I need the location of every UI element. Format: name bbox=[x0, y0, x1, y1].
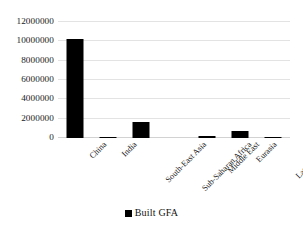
chart-legend: Built GFA bbox=[0, 208, 303, 218]
bar-slot bbox=[224, 22, 257, 138]
y-axis: 0200000040000006000000800000010000000120… bbox=[0, 22, 54, 138]
bar[interactable] bbox=[132, 122, 149, 138]
y-axis-tick-label: 0 bbox=[0, 133, 54, 142]
x-axis: ChinaIndiaSouth-East AsiaSub-Saharan Afr… bbox=[58, 140, 290, 202]
bar-slot bbox=[257, 22, 290, 138]
bar[interactable] bbox=[232, 131, 249, 138]
bar-chart: 0200000040000006000000800000010000000120… bbox=[0, 0, 303, 241]
bar[interactable] bbox=[265, 137, 282, 138]
bar-slot bbox=[157, 22, 190, 138]
x-axis-tick-label: India bbox=[120, 140, 139, 159]
y-axis-tick-label: 12000000 bbox=[0, 17, 54, 26]
legend-label-built-gfa: Built GFA bbox=[135, 208, 179, 218]
bar-slot bbox=[91, 22, 124, 138]
bar[interactable] bbox=[99, 137, 116, 138]
y-axis-tick-label: 4000000 bbox=[0, 95, 54, 104]
x-axis-tick-label: China bbox=[87, 140, 108, 161]
x-axis-tick-label: Latin America bbox=[295, 140, 303, 180]
bars-layer bbox=[58, 22, 290, 138]
y-axis-tick-label: 8000000 bbox=[0, 56, 54, 65]
x-axis-tick-label: South-East Asia bbox=[164, 140, 208, 184]
y-axis-tick-label: 10000000 bbox=[0, 37, 54, 46]
bar-slot bbox=[124, 22, 157, 138]
bar-slot bbox=[191, 22, 224, 138]
legend-swatch-built-gfa bbox=[125, 210, 132, 217]
bar-slot bbox=[58, 22, 91, 138]
bar[interactable] bbox=[199, 136, 216, 138]
bar[interactable] bbox=[66, 39, 83, 138]
y-axis-tick-label: 6000000 bbox=[0, 75, 54, 84]
y-axis-tick-label: 2000000 bbox=[0, 114, 54, 123]
